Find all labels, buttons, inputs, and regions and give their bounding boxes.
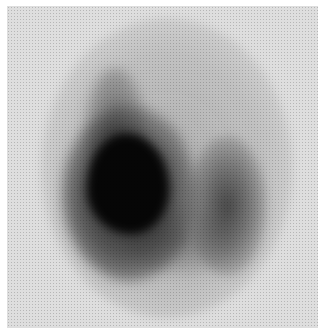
scan-image-panel: Grayscale scintigraphy-style nuclear med… xyxy=(7,6,318,328)
scan-noise-texture xyxy=(7,6,318,328)
